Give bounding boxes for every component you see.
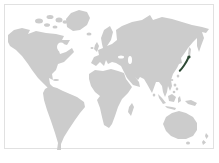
black-sea [118,56,124,59]
tasmania [186,142,190,145]
sulawesi [178,96,181,103]
hudson-bay [57,43,65,52]
map-frame [4,4,214,149]
landmass-australia [163,111,209,145]
sri-lanka [153,93,156,96]
new-zealand-south [202,140,206,145]
world-map [0,0,219,163]
iceland [87,33,92,36]
japan-highlight [180,56,191,71]
java [165,106,176,110]
taiwan [177,74,180,77]
new-guinea [185,100,197,106]
map-figure [0,0,219,163]
madagascar [128,103,134,116]
sakhalin [188,47,191,57]
landmass-north-america [8,15,74,94]
landmass-greenland [66,10,92,36]
cuba [53,79,59,81]
caspian-sea [128,56,132,64]
borneo [168,94,176,102]
hainan [171,79,174,81]
new-zealand-north [205,133,209,139]
landmass-south-america [43,86,85,150]
hokkaido [187,56,190,59]
